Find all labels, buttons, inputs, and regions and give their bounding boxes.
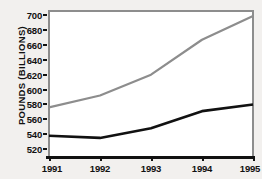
- y-axis-tick-labels: 520540560580600620640660680700: [18, 0, 42, 179]
- y-tick-label: 600: [18, 84, 42, 95]
- series-line-lower-black-series: [49, 104, 253, 137]
- x-tick-mark: [202, 156, 204, 161]
- y-tick-mark: [43, 59, 47, 61]
- y-tick-mark: [43, 118, 47, 120]
- y-tick-label: 660: [18, 39, 42, 50]
- y-tick-mark: [43, 133, 47, 135]
- series-line-upper-gray-series: [49, 16, 253, 107]
- x-tick-mark: [151, 156, 153, 161]
- y-tick-mark: [43, 148, 47, 150]
- y-tick-label: 520: [18, 144, 42, 155]
- y-tick-label: 700: [18, 10, 42, 21]
- y-tick-label: 580: [18, 99, 42, 110]
- x-tick-mark: [49, 156, 51, 161]
- y-tick-label: 680: [18, 25, 42, 36]
- y-tick-mark: [43, 74, 47, 76]
- x-tick-label: 1995: [240, 163, 260, 174]
- y-tick-label: 640: [18, 54, 42, 65]
- y-tick-mark: [43, 44, 47, 46]
- x-tick-label: 1992: [90, 163, 110, 174]
- y-tick-mark: [43, 103, 47, 105]
- x-tick-label: 1993: [141, 163, 161, 174]
- plot-series-layer: [48, 10, 254, 158]
- y-tick-label: 560: [18, 114, 42, 125]
- x-tick-mark: [253, 156, 255, 161]
- y-tick-mark: [43, 89, 47, 91]
- x-tick-mark: [100, 156, 102, 161]
- x-tick-label: 1991: [42, 163, 62, 174]
- y-tick-label: 620: [18, 69, 42, 80]
- line-chart: POUNDS (BILLIONS) 5205405605806006206406…: [0, 0, 262, 179]
- y-tick-mark: [43, 29, 47, 31]
- x-tick-label: 1994: [192, 163, 212, 174]
- y-tick-label: 540: [18, 129, 42, 140]
- y-tick-mark: [43, 14, 47, 16]
- x-axis-tick-labels: 19911992199319941995: [0, 163, 262, 179]
